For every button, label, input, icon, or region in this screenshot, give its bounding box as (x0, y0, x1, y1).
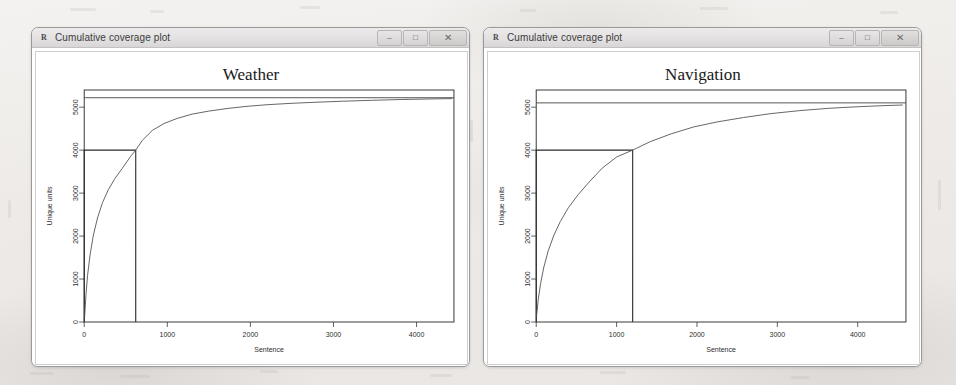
chart-title: Weather (223, 65, 280, 84)
y-tick-label: 1000 (72, 271, 79, 287)
y-tick-label: 2000 (72, 228, 79, 244)
y-tick-label: 3000 (524, 185, 531, 201)
minimize-button[interactable]: – (377, 30, 402, 46)
coverage-curve (537, 105, 903, 316)
y-tick-label: 5000 (72, 99, 79, 115)
plot-window[interactable]: R Cumulative coverage plot – □ ✕ Navigat… (483, 27, 922, 367)
y-axis: 010002000300040005000 (524, 99, 536, 324)
x-tick-label: 3000 (326, 331, 342, 338)
window-title: Cumulative coverage plot (55, 32, 377, 43)
threshold-rectangle (84, 150, 136, 322)
coverage-chart: Weather 010002000300040005000 0100020003… (36, 52, 467, 364)
window-titlebar[interactable]: R Cumulative coverage plot – □ ✕ (32, 28, 469, 48)
threshold-rectangle (536, 150, 632, 322)
window-titlebar[interactable]: R Cumulative coverage plot – □ ✕ (484, 28, 921, 48)
x-axis-label: Sentence (254, 346, 284, 353)
x-axis: 01000200030004000 (534, 322, 865, 338)
y-axis-label: Unique units (46, 186, 54, 225)
y-tick-label: 4000 (524, 142, 531, 158)
r-graphics-icon: R (38, 32, 50, 43)
maximize-button[interactable]: □ (403, 30, 428, 46)
plot-canvas: Weather 010002000300040005000 0100020003… (35, 51, 468, 365)
x-tick-label: 4000 (850, 331, 866, 338)
y-tick-label: 0 (72, 320, 79, 324)
plot-canvas: Navigation 010002000300040005000 0100020… (487, 51, 920, 365)
y-axis-label: Unique units (498, 186, 506, 225)
coverage-curve (85, 99, 453, 317)
y-tick-label: 3000 (72, 185, 79, 201)
plot-frame (536, 90, 906, 322)
y-tick-label: 0 (524, 320, 531, 324)
plot-frame (84, 90, 454, 322)
y-axis: 010002000300040005000 (72, 99, 84, 324)
r-graphics-icon: R (490, 32, 502, 43)
x-tick-label: 1000 (159, 331, 175, 338)
x-tick-label: 0 (534, 331, 538, 338)
x-tick-label: 2000 (243, 331, 259, 338)
y-tick-label: 2000 (524, 228, 531, 244)
x-tick-label: 0 (82, 331, 86, 338)
x-tick-label: 2000 (689, 331, 705, 338)
chart-title: Navigation (665, 65, 741, 84)
y-tick-label: 1000 (524, 271, 531, 287)
close-button[interactable]: ✕ (429, 30, 467, 46)
window-controls: – □ ✕ (377, 30, 467, 46)
minimize-button[interactable]: – (829, 30, 854, 46)
x-axis-label: Sentence (706, 346, 736, 353)
window-body: Weather 010002000300040005000 0100020003… (32, 48, 469, 366)
x-axis: 01000200030004000 (82, 322, 424, 338)
close-button[interactable]: ✕ (881, 30, 919, 46)
x-tick-label: 3000 (770, 331, 786, 338)
x-tick-label: 4000 (409, 331, 425, 338)
y-tick-label: 5000 (524, 99, 531, 115)
coverage-chart: Navigation 010002000300040005000 0100020… (488, 52, 919, 364)
y-tick-label: 4000 (72, 142, 79, 158)
maximize-button[interactable]: □ (855, 30, 880, 46)
window-title: Cumulative coverage plot (507, 32, 829, 43)
window-body: Navigation 010002000300040005000 0100020… (484, 48, 921, 366)
plot-window[interactable]: R Cumulative coverage plot – □ ✕ Weather… (31, 27, 470, 367)
x-tick-label: 1000 (609, 331, 625, 338)
window-controls: – □ ✕ (829, 30, 919, 46)
